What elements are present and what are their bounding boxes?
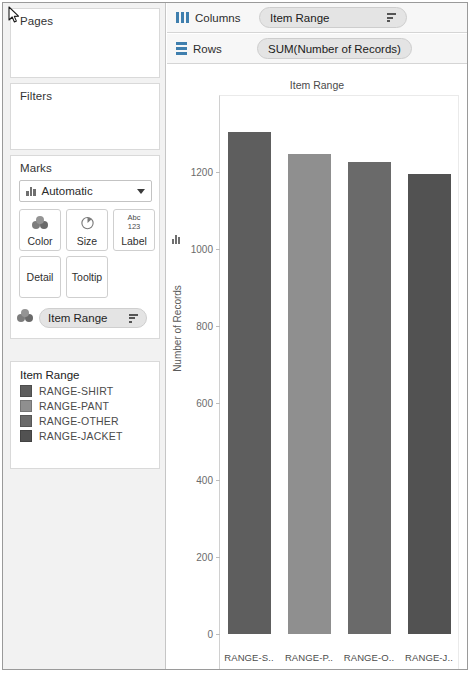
legend-item-label: RANGE-JACKET bbox=[39, 430, 123, 442]
x-axis-tick-label[interactable]: RANGE-J.. bbox=[399, 652, 459, 663]
x-axis-tick-label[interactable]: RANGE-O.. bbox=[339, 652, 399, 663]
columns-shelf-label: Columns bbox=[195, 12, 259, 24]
filters-shelf-title: Filters bbox=[11, 84, 159, 102]
plot-area: Number of Records 020040060080010001200 … bbox=[167, 95, 467, 669]
columns-icon bbox=[176, 12, 189, 23]
color-circles-icon bbox=[20, 210, 60, 235]
legend-item[interactable]: RANGE-JACKET bbox=[11, 428, 159, 443]
sort-descending-icon[interactable] bbox=[129, 314, 138, 323]
chevron-down-icon[interactable] bbox=[137, 189, 145, 194]
color-button[interactable]: Color bbox=[19, 209, 61, 251]
legend-item[interactable]: RANGE-OTHER bbox=[11, 413, 159, 428]
rows-pill[interactable]: SUM(Number of Records) bbox=[257, 38, 412, 59]
color-legend-card: Item Range RANGE-SHIRT RANGE-PANT RANGE-… bbox=[10, 361, 160, 469]
x-axis-labels[interactable]: RANGE-S..RANGE-P..RANGE-O..RANGE-J.. bbox=[219, 652, 459, 663]
size-button[interactable]: Size bbox=[66, 209, 108, 251]
label-icon-123: 123 bbox=[128, 222, 141, 231]
color-circles-icon bbox=[17, 309, 34, 327]
rows-shelf-label: Rows bbox=[193, 43, 257, 55]
size-button-label: Size bbox=[77, 235, 97, 247]
marks-color-pill-label: Item Range bbox=[48, 312, 107, 324]
y-axis-tick-mark bbox=[216, 634, 220, 635]
columns-pill-label: Item Range bbox=[270, 12, 329, 24]
x-axis-tick-label[interactable]: RANGE-P.. bbox=[279, 652, 339, 663]
mark-type-dropdown[interactable]: Automatic bbox=[19, 180, 152, 202]
legend-swatch-icon bbox=[20, 385, 32, 397]
pages-shelf-card[interactable]: Pages bbox=[10, 8, 160, 78]
bar[interactable] bbox=[228, 132, 271, 634]
columns-pill[interactable]: Item Range bbox=[259, 7, 407, 28]
legend-swatch-icon bbox=[20, 430, 32, 442]
legend-item[interactable]: RANGE-SHIRT bbox=[11, 383, 159, 398]
label-button-label: Label bbox=[121, 235, 147, 247]
bar[interactable] bbox=[348, 162, 391, 634]
bar[interactable] bbox=[288, 154, 331, 634]
abc-123-icon: Abc 123 bbox=[114, 210, 154, 235]
marks-buttons-group: Color Size Abc 123 bbox=[19, 209, 155, 298]
marks-encoding-row: Item Range bbox=[17, 308, 157, 328]
tooltip-button[interactable]: Tooltip bbox=[66, 256, 108, 298]
x-axis-tick-label[interactable]: RANGE-S.. bbox=[219, 652, 279, 663]
columns-shelf[interactable]: Columns Item Range bbox=[167, 3, 467, 33]
mark-type-value: Automatic bbox=[42, 185, 93, 197]
bar[interactable] bbox=[408, 174, 451, 634]
detail-button-label: Detail bbox=[27, 271, 54, 283]
legend-item-label: RANGE-PANT bbox=[39, 400, 109, 412]
legend-item-label: RANGE-SHIRT bbox=[39, 385, 113, 397]
marks-card-title: Marks bbox=[11, 156, 159, 174]
visualization-canvas[interactable]: Item Range Number of Records 02004006008… bbox=[167, 65, 467, 669]
sort-descending-icon[interactable] bbox=[387, 13, 396, 22]
legend-title: Item Range bbox=[11, 362, 159, 383]
left-control-panel: Pages Filters Marks Automatic Color bbox=[3, 3, 166, 669]
marks-card: Marks Automatic Color bbox=[10, 155, 160, 339]
rows-icon bbox=[176, 42, 187, 55]
bar-chart-icon bbox=[26, 186, 36, 196]
color-button-label: Color bbox=[27, 235, 52, 247]
mouse-pointer-icon bbox=[8, 6, 20, 24]
legend-item[interactable]: RANGE-PANT bbox=[11, 398, 159, 413]
legend-swatch-icon bbox=[20, 415, 32, 427]
bars-layer bbox=[167, 60, 467, 634]
tableau-worksheet-window: Pages Filters Marks Automatic Color bbox=[0, 0, 470, 691]
size-pie-icon bbox=[67, 210, 107, 235]
tooltip-button-label: Tooltip bbox=[72, 271, 102, 283]
detail-button[interactable]: Detail bbox=[19, 256, 61, 298]
rows-pill-label: SUM(Number of Records) bbox=[268, 43, 401, 55]
pages-shelf-title: Pages bbox=[11, 9, 159, 27]
filters-shelf-card[interactable]: Filters bbox=[10, 83, 160, 150]
marks-color-pill[interactable]: Item Range bbox=[39, 308, 147, 328]
label-button[interactable]: Abc 123 Label bbox=[113, 209, 155, 251]
legend-item-label: RANGE-OTHER bbox=[39, 415, 119, 427]
legend-swatch-icon bbox=[20, 400, 32, 412]
